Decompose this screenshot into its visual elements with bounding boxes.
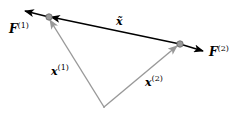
label-xtilde: x̃ bbox=[115, 15, 123, 28]
position-vector-x2 bbox=[104, 46, 177, 107]
label-F2: F(2) bbox=[208, 44, 229, 59]
point-1 bbox=[46, 14, 52, 20]
force-diagram: F(1) F(2) x(1) x(2) x̃ bbox=[0, 0, 245, 116]
force-arrow-F2 bbox=[180, 44, 203, 51]
origin-point bbox=[103, 106, 105, 108]
label-x1: x(1) bbox=[50, 63, 69, 78]
point-2 bbox=[177, 41, 183, 47]
force-arrow-F1 bbox=[25, 11, 49, 17]
label-F1: F(1) bbox=[8, 21, 29, 36]
label-x2: x(2) bbox=[144, 74, 163, 89]
